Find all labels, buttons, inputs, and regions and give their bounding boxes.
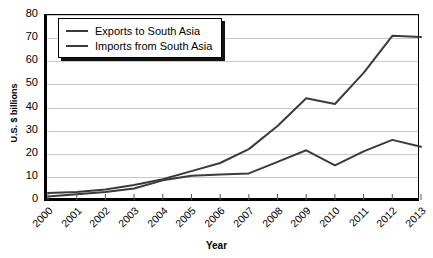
y-tick-label: 30 — [14, 124, 38, 135]
x-tick-label: 2012 — [364, 205, 399, 240]
series-line — [48, 36, 421, 193]
y-tick-label: 40 — [14, 101, 38, 112]
x-tick-label: 2002 — [78, 205, 113, 240]
legend-item: Imports from South Asia — [66, 38, 212, 53]
x-tick-label: 2013 — [393, 205, 428, 240]
x-tick-label: 2003 — [106, 205, 141, 240]
legend-line-icon — [66, 45, 88, 47]
legend-item-label: Imports from South Asia — [95, 40, 212, 52]
x-tick-label: 2011 — [336, 205, 371, 240]
y-tick-label: 80 — [14, 8, 38, 19]
x-tick-label: 2010 — [307, 205, 342, 240]
legend-line-icon — [66, 30, 88, 32]
x-tick-label: 2006 — [192, 205, 227, 240]
x-tick-label: 2009 — [278, 205, 313, 240]
x-tick-label: 2000 — [20, 205, 55, 240]
y-tick-label: 10 — [14, 170, 38, 181]
x-tick-label: 2008 — [250, 205, 285, 240]
y-tick-label: 60 — [14, 54, 38, 65]
x-tick-label: 2007 — [221, 205, 256, 240]
x-tick-label: 2001 — [49, 205, 84, 240]
y-tick-label: 20 — [14, 147, 38, 158]
y-tick-label: 50 — [14, 77, 38, 88]
line-chart: U.S. $ billions 80706050403020100 200020… — [0, 0, 433, 258]
legend-item-label: Exports to South Asia — [95, 25, 200, 37]
x-tick-label: 2004 — [135, 205, 170, 240]
y-tick-label: 70 — [14, 31, 38, 42]
series-line — [48, 140, 421, 197]
x-tick-label: 2005 — [164, 205, 199, 240]
legend-item: Exports to South Asia — [66, 23, 212, 38]
x-axis-title: Year — [0, 240, 433, 251]
y-tick-label: 0 — [14, 193, 38, 204]
chart-legend: Exports to South Asia Imports from South… — [58, 18, 222, 58]
